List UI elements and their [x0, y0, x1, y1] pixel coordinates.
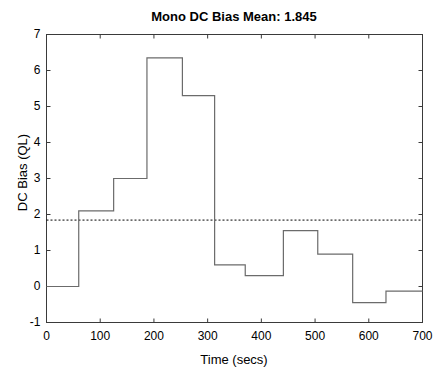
y-axis-label: DC Bias (QL) [15, 98, 30, 248]
y-tick-label: 6 [7, 63, 41, 77]
x-tick-label: 600 [349, 329, 389, 343]
plot-area [0, 0, 447, 380]
step-line-path [47, 58, 423, 303]
y-tick-label: -1 [7, 315, 41, 329]
axes-box [47, 35, 423, 323]
data-series-step-line [47, 58, 423, 303]
x-tick-label: 500 [295, 329, 335, 343]
x-tick-label: 0 [27, 329, 67, 343]
x-tick-label: 200 [134, 329, 174, 343]
figure-canvas: Mono DC Bias Mean: 1.845 -101234567 0100… [0, 0, 447, 380]
x-tick-label: 100 [80, 329, 120, 343]
x-tick-label: 700 [403, 329, 443, 343]
x-tick-label: 400 [241, 329, 281, 343]
x-axis-label: Time (secs) [46, 352, 422, 367]
y-tick-label: 0 [7, 279, 41, 293]
axes-border [47, 35, 423, 323]
axis-ticks [47, 35, 423, 323]
y-tick-label: 7 [7, 27, 41, 41]
x-tick-label: 300 [188, 329, 228, 343]
